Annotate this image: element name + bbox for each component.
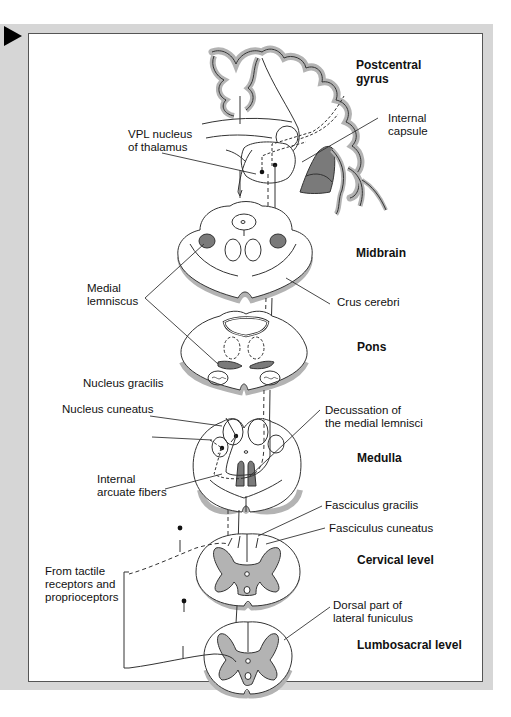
- label-pons: Pons: [357, 340, 386, 354]
- label-from-receptors: From tactile receptors and proprioceptor…: [45, 565, 119, 604]
- pons-section: [181, 311, 307, 392]
- label-nucleus-cuneatus: Nucleus cuneatus: [62, 403, 153, 416]
- label-lumbosacral-level: Lumbosacral level: [357, 638, 462, 652]
- pathway-diagram: [0, 0, 511, 717]
- lumbosacral-cord-section: [129, 599, 292, 696]
- label-medulla: Medulla: [357, 451, 402, 465]
- label-cervical-level: Cervical level: [357, 553, 434, 567]
- label-medial-lemniscus: Medial lemniscus: [87, 282, 138, 308]
- midbrain-section: [178, 202, 312, 301]
- label-nucleus-gracilis: Nucleus gracilis: [83, 377, 164, 390]
- label-internal-capsule: Internal capsule: [388, 112, 428, 138]
- label-crus-cerebri: Crus cerebri: [337, 296, 400, 309]
- label-vpl-nucleus: VPL nucleus of thalamus: [128, 128, 192, 154]
- label-decussation: Decussation of the medial lemnisci: [325, 404, 423, 430]
- label-midbrain: Midbrain: [356, 246, 406, 260]
- label-internal-arcuate-fibers: Internal arcuate fibers: [97, 473, 167, 499]
- medulla-section: [193, 418, 301, 512]
- label-dorsal-lateral-funiculus: Dorsal part of lateral funiculus: [333, 599, 413, 625]
- label-fasciculus-cuneatus: Fasciculus cuneatus: [329, 522, 433, 535]
- label-fasciculus-gracilis: Fasciculus gracilis: [325, 499, 418, 512]
- cervical-cord-section: [129, 526, 300, 608]
- label-postcentral-gyrus: Postcentral gyrus: [356, 58, 421, 86]
